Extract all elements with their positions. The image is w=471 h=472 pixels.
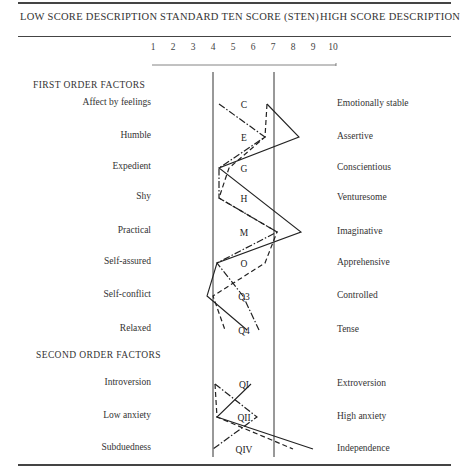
profile-line-dashdot: [213, 384, 257, 449]
profile-plot: [0, 0, 471, 472]
bottom-rule: [18, 464, 451, 466]
profile-line-dashed: [213, 104, 277, 330]
profile-line-dashdot: [217, 104, 277, 330]
profile-line-solid: [217, 384, 313, 449]
profile-line-solid: [207, 104, 301, 330]
